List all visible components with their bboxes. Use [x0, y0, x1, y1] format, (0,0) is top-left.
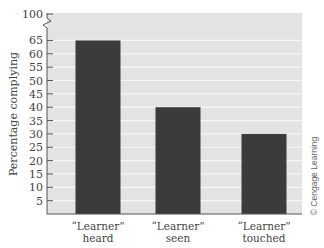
copyright-credit: © Cengage Learning	[309, 136, 319, 215]
y-tick-label: 40	[29, 101, 43, 114]
y-tick-label: 10	[29, 181, 43, 194]
y-tick-label: 35	[29, 115, 43, 128]
y-tick-label: 50	[29, 75, 43, 88]
y-tick-label: 20	[29, 155, 43, 168]
y-tick-label: 65	[29, 34, 43, 47]
y-tick-label: 30	[29, 128, 43, 141]
y-tick-label: 45	[29, 88, 43, 101]
y-axis-label: Percentage complying	[7, 52, 20, 176]
x-category-label: “Learner”	[151, 220, 204, 232]
x-category-label: heard	[83, 232, 114, 244]
x-category-label: touched	[243, 232, 286, 244]
y-tick-label: 55	[29, 61, 43, 74]
y-tick-label: 60	[29, 48, 43, 61]
y-tick-label: 5	[36, 195, 43, 208]
bar-1	[76, 40, 121, 214]
y-tick-label: 25	[29, 141, 43, 154]
bar-3	[242, 134, 287, 214]
x-category-label: “Learner”	[237, 220, 290, 232]
bar-chart: 5101520253035404550556065100 “Learner”he…	[0, 0, 324, 248]
y-tick-label: 15	[29, 168, 43, 181]
x-category-label: “Learner”	[71, 220, 124, 232]
bar-2	[156, 107, 201, 214]
x-category-label: seen	[166, 232, 191, 244]
y-tick-label: 100	[22, 8, 43, 21]
x-labels: “Learner”heard“Learner”seen“Learner”touc…	[71, 220, 290, 244]
